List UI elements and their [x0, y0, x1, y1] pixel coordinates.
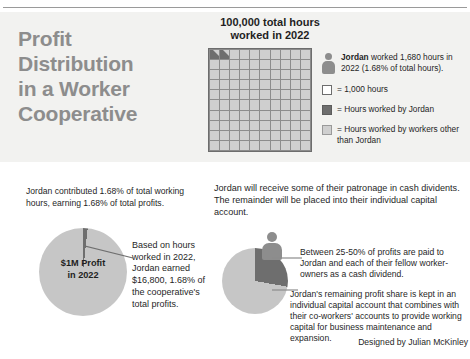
infographic-canvas: Profit Distribution in a Worker Cooperat… [0, 0, 470, 359]
grid-cell-other [230, 60, 240, 70]
grid-cell-other [280, 110, 290, 120]
grid-cell-other [250, 100, 260, 110]
grid-title-line-2: worked in 2022 [205, 29, 335, 42]
legend-label-1000-hours: = 1,000 hours [337, 84, 388, 95]
grid-cell-other [270, 90, 280, 100]
profit-pie-label-line-2: in 2022 [39, 270, 127, 282]
grid-cell-other [290, 50, 300, 60]
grid-row [210, 130, 311, 140]
grid-cell-other [290, 60, 300, 70]
title-line-2: Distribution [18, 51, 188, 76]
grid-cell-other [290, 90, 300, 100]
grid-cell-other [240, 100, 250, 110]
grid-cell-other [270, 80, 280, 90]
legend-row-jordan-hours: = Hours worked by Jordan [322, 104, 467, 115]
grid-row [210, 110, 311, 120]
hours-grid-chart [208, 48, 312, 152]
grid-cell-other [270, 130, 280, 140]
lower-right-intro-text: Jordan will receive some of their patron… [214, 182, 466, 218]
grid-cell-other [300, 140, 310, 150]
grid-cell-other [240, 70, 250, 80]
grid-cell-other [240, 130, 250, 140]
title-line-3: in a Worker [18, 76, 188, 101]
grid-cell-other [240, 140, 250, 150]
grid-cell-other [230, 50, 240, 60]
grid-cell-other [270, 120, 280, 130]
grid-cell-other [220, 130, 230, 140]
grid-cell-other [220, 90, 230, 100]
grid-cell-other [290, 130, 300, 140]
title-line-4: Cooperative [18, 101, 188, 126]
grid-cell-other [300, 110, 310, 120]
grid-cell-other [230, 120, 240, 130]
patronage-callout-dividend: Between 25-50% of profits are paid to Jo… [300, 247, 468, 280]
chart-legend: Jordan worked 1,680 hours in 2022 (1.68%… [322, 52, 467, 154]
grid-cell-other [210, 70, 220, 80]
grid-cell-other [270, 100, 280, 110]
grid-cell-other [260, 50, 270, 60]
grid-cell-other [220, 140, 230, 150]
grid-cell-other [220, 110, 230, 120]
grid-cell-other [230, 140, 240, 150]
legend-label-jordan-hours: = Hours worked by Jordan [337, 104, 434, 115]
grid-row [210, 50, 311, 60]
grid-cell-other [210, 80, 220, 90]
grid-chart-title: 100,000 total hours worked in 2022 [205, 16, 335, 42]
legend-person-text: Jordan worked 1,680 hours in 2022 (1.68%… [341, 52, 467, 73]
person-icon [322, 53, 335, 75]
grid-cell-other [280, 60, 290, 70]
grid-cell-other [230, 90, 240, 100]
grid-row [210, 120, 311, 130]
grid-cell-other [300, 120, 310, 130]
grid-cell-other [240, 80, 250, 90]
top-divider-rule [3, 7, 467, 8]
person-head-icon [325, 53, 332, 60]
legend-row-person: Jordan worked 1,680 hours in 2022 (1.68%… [322, 52, 467, 75]
patronage-person-head-icon [267, 232, 277, 242]
dark-square-icon [322, 105, 332, 115]
grid-cell-other [260, 60, 270, 70]
person-body-icon [322, 61, 335, 74]
grid-cell-other [300, 130, 310, 140]
grid-cell-other [240, 50, 250, 60]
grid-cell-other [260, 110, 270, 120]
grid-cell-other [210, 110, 220, 120]
grid-cell-other [250, 70, 260, 80]
grid-cell-other [250, 120, 260, 130]
grid-cell-other [250, 50, 260, 60]
grid-cell-other [210, 120, 220, 130]
grid-cell-other [300, 100, 310, 110]
grid-cell-other [300, 80, 310, 90]
profit-pie-leader-line [84, 234, 134, 262]
grid-cell-other [250, 130, 260, 140]
grid-cell-other [230, 110, 240, 120]
grid-row [210, 140, 311, 150]
grid-cell-other [280, 90, 290, 100]
grid-cell-other [290, 120, 300, 130]
grid-cell-other [220, 120, 230, 130]
grid-cell-other [250, 90, 260, 100]
title-line-1: Profit [18, 26, 188, 51]
grid-row [210, 100, 311, 110]
grid-cell-other [210, 140, 220, 150]
grid-cell-other [270, 70, 280, 80]
grid-cell-other [290, 100, 300, 110]
grid-cell-other [250, 140, 260, 150]
grid-cell-other [210, 130, 220, 140]
grid-cell-other [220, 70, 230, 80]
grid-cell-other [230, 70, 240, 80]
grid-row [210, 80, 311, 90]
grid-cell-other [290, 140, 300, 150]
designer-credit: Designed by Julian McKinley [290, 337, 468, 348]
grid-cell-other [280, 100, 290, 110]
grid-row [210, 60, 311, 70]
grid-cell-other [210, 90, 220, 100]
grid-cell-other [290, 110, 300, 120]
grid-cell-other [280, 130, 290, 140]
grid-cell-other [280, 50, 290, 60]
grid-cell-other [210, 100, 220, 110]
grid-cell-other [260, 140, 270, 150]
grid-cell-other [220, 80, 230, 90]
grid-cell-jordan [210, 50, 220, 60]
grid-cell-other [260, 120, 270, 130]
